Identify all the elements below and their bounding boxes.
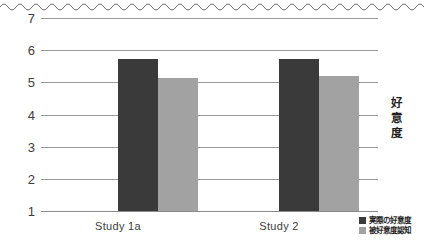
gridline-1-baseline	[41, 211, 378, 212]
y-axis-title-char-1: 好	[386, 96, 406, 111]
bar-study-1a-actual	[118, 59, 158, 211]
legend-item-actual: 実際の好意度	[359, 217, 426, 225]
bar-study-2-perceived	[319, 76, 359, 211]
gridline-6	[41, 50, 378, 51]
y-tick-label-1: 1	[28, 205, 35, 218]
y-axis-title-char-2: 意	[386, 111, 406, 126]
plot-area: 7 6 5 4 3 2 1 Study 1a Study 2	[41, 14, 378, 215]
y-tick-label-6: 6	[28, 44, 35, 57]
legend-swatch-icon-actual	[359, 217, 366, 224]
y-tick-label-7: 7	[28, 12, 35, 25]
bar-study-1a-perceived	[158, 78, 198, 211]
axis-break-wavy-line	[0, 0, 426, 12]
y-tick-label-4: 4	[28, 109, 35, 122]
gridline-7	[41, 18, 378, 19]
bar-study-2-actual	[279, 59, 319, 211]
legend-label-perceived: 被好意度認知	[369, 227, 411, 235]
bar-chart: 7 6 5 4 3 2 1 Study 1a Study 2 好 意 度 実際の…	[0, 0, 426, 251]
y-axis-title-char-3: 度	[386, 126, 406, 141]
legend-item-perceived: 被好意度認知	[359, 227, 426, 235]
legend-label-actual: 実際の好意度	[369, 217, 411, 225]
y-tick-label-5: 5	[28, 76, 35, 89]
y-axis-title: 好 意 度	[386, 96, 406, 142]
x-axis-label-study-1a: Study 1a	[95, 220, 141, 232]
x-axis-label-study-2: Study 2	[259, 220, 298, 232]
y-tick-label-3: 3	[28, 141, 35, 154]
legend: 実際の好意度 被好意度認知	[359, 217, 426, 236]
y-tick-label-2: 2	[28, 173, 35, 186]
legend-swatch-icon-perceived	[359, 227, 366, 234]
